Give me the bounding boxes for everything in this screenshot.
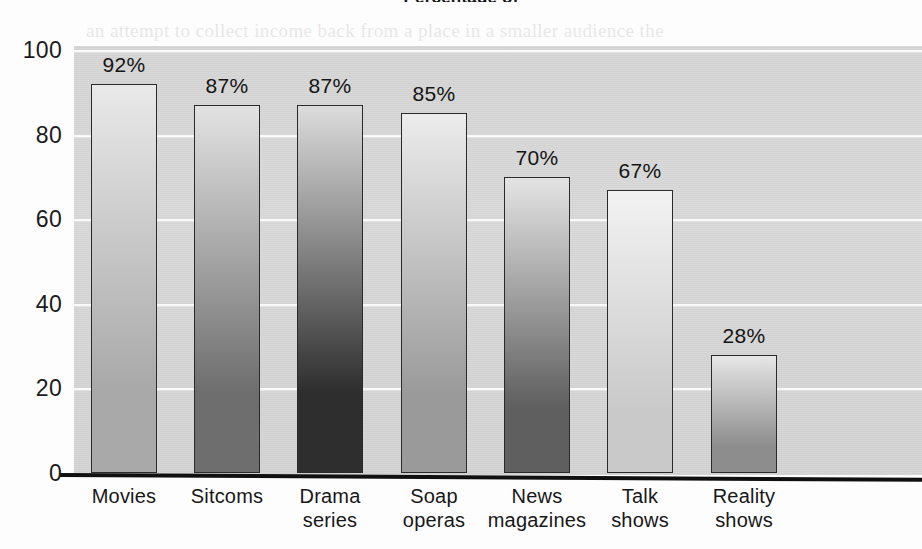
bar-shadow — [98, 91, 162, 478]
x-tick-label-reality-shows: Reality shows — [679, 485, 809, 532]
bar-reality-shows[interactable] — [711, 355, 777, 473]
ghost-text-line-1: an attempt to collect income back from a… — [86, 20, 664, 42]
bar-shadow — [511, 184, 575, 478]
y-axis: 020406080100 — [0, 0, 74, 549]
bar-value-label: 70% — [487, 146, 587, 170]
bar-shadow — [304, 112, 368, 478]
bar-soap-operas[interactable] — [401, 113, 467, 473]
y-tick-label-40: 40 — [36, 290, 62, 317]
bar-shadow — [718, 362, 782, 478]
bar-drama-series[interactable] — [297, 105, 363, 473]
bar-news-magazines[interactable] — [504, 177, 570, 473]
bar-shadow — [614, 197, 678, 478]
bar-value-label: 92% — [74, 53, 174, 77]
bar-sitcoms[interactable] — [194, 105, 260, 473]
bar-talk-shows[interactable] — [607, 190, 673, 473]
chart-title: Percentage of — [0, 0, 922, 2]
bar-chart-figure: an attempt to collect income back from a… — [0, 0, 922, 549]
y-tick-label-20: 20 — [36, 375, 62, 402]
bar-value-label: 67% — [590, 159, 690, 183]
y-tick-label-100: 100 — [23, 37, 62, 64]
gridline-100 — [74, 50, 922, 52]
y-tick-label-80: 80 — [36, 121, 62, 148]
bar-value-label: 28% — [694, 324, 794, 348]
bar-value-label: 85% — [384, 82, 484, 106]
y-tick-label-60: 60 — [36, 206, 62, 233]
bar-shadow — [201, 112, 265, 478]
bar-movies[interactable] — [91, 84, 157, 473]
bar-shadow — [408, 120, 472, 478]
bar-value-label: 87% — [280, 74, 380, 98]
y-tick-label-0: 0 — [49, 460, 62, 487]
bar-value-label: 87% — [177, 74, 277, 98]
